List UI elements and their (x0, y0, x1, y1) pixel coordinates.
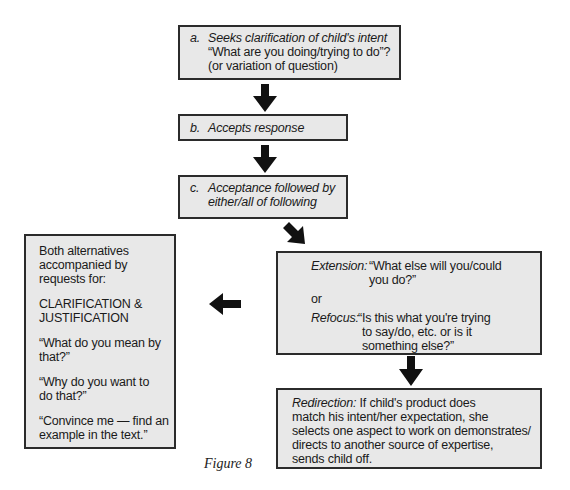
refocus-line: something else?” (358, 339, 490, 353)
heading-text: CLARIFICATION & JUSTIFICATION (39, 297, 174, 325)
refocus-row: Refocus: “Is this what you're trying to … (311, 311, 540, 353)
box-a-seeks-clarification: a. Seeks clarification of child's intent… (178, 25, 401, 80)
redirection-label: Redirection: (292, 396, 356, 410)
step-label-c: c. (190, 181, 208, 195)
box-c-line2: either/all of following (190, 195, 346, 209)
refocus-line: “Is this what you're trying (358, 311, 490, 325)
quote-line: “What do you mean by (39, 336, 174, 350)
redirection-first-line: Redirection: If child's product does (292, 396, 540, 410)
or-text: or (311, 292, 540, 306)
down-arrow-a-to-b (253, 84, 277, 112)
box-a-question: “What are you doing/trying to do”? (190, 45, 399, 59)
redirection-line: match his intent/her expectation, she (292, 410, 540, 424)
left-arrow-extension-to-left-box (209, 293, 241, 315)
redirection-line: selects one aspect to work on demonstrat… (292, 424, 540, 438)
intro-text: Both alternatives accompanied by request… (39, 244, 174, 286)
extension-label: Extension: (311, 259, 369, 287)
down-arrow-extension-to-redirection (399, 356, 423, 386)
redirection-line1-rest: If child's product does (360, 396, 476, 410)
quote-convince-me: “Convince me — find an example in the te… (39, 414, 174, 442)
quote-line: do that?” (39, 389, 174, 403)
extension-line: you do?” (369, 273, 502, 287)
box-c-line1: Acceptance followed by (208, 181, 335, 195)
quote-line: “Convince me — find an (39, 414, 174, 428)
box-c-acceptance-followed: c. Acceptance followed by either/all of … (178, 175, 348, 219)
box-extension-refocus: Extension: “What else will you/could you… (276, 251, 542, 355)
figure-caption: Figure 8 (204, 456, 252, 472)
refocus-line: to say/do, etc. or is it (358, 325, 490, 339)
step-label-a: a. (190, 31, 208, 45)
box-clarification-justification: Both alternatives accompanied by request… (24, 234, 176, 449)
box-b-accepts-response: b. Accepts response (178, 114, 348, 141)
quote-line: that?” (39, 350, 174, 364)
diagonal-arrow-c-to-extension (283, 222, 309, 248)
quote-what-do-you-mean: “What do you mean by that?” (39, 336, 174, 364)
box-redirection: Redirection: If child's product does mat… (276, 388, 542, 469)
refocus-label: Refocus: (311, 311, 358, 353)
heading-line: CLARIFICATION & (39, 297, 174, 311)
box-b-title: Accepts response (208, 121, 304, 135)
heading-line: JUSTIFICATION (39, 311, 174, 325)
redirection-line: directs to another source of expertise, (292, 438, 540, 452)
step-label-b: b. (190, 121, 208, 135)
redirection-line: sends child off. (292, 452, 540, 466)
extension-line: “What else will you/could (369, 259, 502, 273)
box-a-note: (or variation of question) (190, 59, 399, 73)
box-a-title: Seeks clarification of child's intent (208, 31, 387, 45)
quote-line: “Why do you want to (39, 375, 174, 389)
intro-line: accompanied by (39, 258, 174, 272)
extension-row: Extension: “What else will you/could you… (311, 259, 540, 287)
down-arrow-b-to-c (253, 145, 277, 173)
intro-line: requests for: (39, 272, 174, 286)
quote-line: example in the text.” (39, 428, 174, 442)
intro-line: Both alternatives (39, 244, 174, 258)
quote-why-do-you-want: “Why do you want to do that?” (39, 375, 174, 403)
